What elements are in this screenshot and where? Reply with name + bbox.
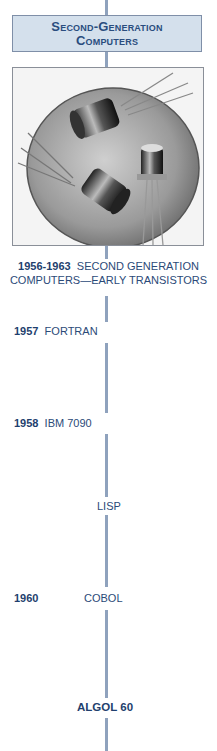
entry-label: ALGOL 60 bbox=[77, 701, 133, 713]
timeline-line bbox=[105, 434, 108, 497]
timeline-line bbox=[105, 0, 108, 15]
entry-year: 1960 bbox=[14, 592, 38, 604]
timeline-line bbox=[105, 296, 108, 322]
entry-label: FORTRAN bbox=[45, 325, 98, 337]
timeline-line bbox=[105, 515, 108, 587]
caption-year: 1956-1963 bbox=[18, 260, 71, 272]
entry-label: LISP bbox=[97, 500, 121, 512]
entry-label: IBM 7090 bbox=[45, 417, 92, 429]
entry-year: 1958 bbox=[14, 417, 38, 429]
caption-text-line1: SECOND GENERATION bbox=[77, 260, 199, 272]
timeline-entry-lisp: LISP bbox=[97, 500, 121, 513]
timeline-line bbox=[105, 246, 108, 259]
timeline-line bbox=[105, 718, 108, 751]
transistors-photo-icon bbox=[13, 68, 203, 245]
timeline-line bbox=[105, 52, 108, 67]
timeline-entry-ibm7090: 1958 IBM 7090 bbox=[14, 417, 92, 430]
timeline-entry-cobol-year: 1960 bbox=[14, 592, 38, 605]
timeline-entry-cobol: COBOL bbox=[84, 592, 123, 605]
era-caption: 1956-1963 SECOND GENERATION COMPUTERS—EA… bbox=[0, 259, 217, 287]
transistors-photo bbox=[12, 67, 204, 246]
entry-label: COBOL bbox=[84, 592, 123, 604]
section-header: Second-Generation Computers bbox=[12, 15, 202, 52]
caption-line1: 1956-1963 SECOND GENERATION bbox=[0, 259, 217, 273]
caption-text-line2: COMPUTERS—EARLY TRANSISTORS bbox=[0, 273, 217, 287]
timeline-entry-algol60: ALGOL 60 bbox=[77, 701, 133, 714]
entry-year: 1957 bbox=[14, 325, 38, 337]
timeline-line bbox=[105, 610, 108, 698]
header-title-line2: Computers bbox=[76, 34, 138, 48]
header-title-line1: Second-Generation bbox=[51, 20, 162, 34]
timeline-entry-fortran: 1957 FORTRAN bbox=[14, 325, 98, 338]
timeline-line bbox=[105, 343, 108, 413]
